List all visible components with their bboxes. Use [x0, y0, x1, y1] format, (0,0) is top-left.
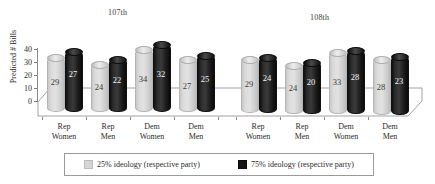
- category-label-line2: Women: [42, 132, 86, 142]
- bar-cap: [285, 62, 303, 70]
- category-label-line1: Rep: [86, 122, 130, 132]
- bar-value-107-rep-men-25: 24: [91, 83, 107, 92]
- category-label-3: Dem Men: [174, 122, 218, 142]
- category-label-7: Dem Men: [368, 122, 412, 142]
- bar-value-107-rep-men-75: 22: [109, 76, 125, 85]
- group-title-108th: 108th: [310, 13, 329, 22]
- legend-item-75: 75% ideology (respective party): [238, 160, 354, 169]
- category-label-line2: Men: [280, 132, 324, 142]
- legend-label-25: 25% ideology (respective party): [97, 160, 200, 169]
- bar-cap: [179, 56, 197, 64]
- bar-value-108-dem-men-25: 28: [373, 83, 389, 92]
- chart-container: 107th 108th Predicted # Bills 40 30 20 1…: [0, 0, 435, 184]
- bar-cap: [347, 47, 365, 55]
- bar-value-107-dem-women-25: 34: [135, 75, 151, 84]
- bar-cap: [303, 59, 321, 67]
- y-axis-label: Predicted # Bills: [9, 22, 18, 92]
- bar-107-rep-men-75: [109, 58, 127, 112]
- bar-107-rep-women-75: [65, 50, 83, 112]
- bar-108-rep-men-75: [303, 61, 321, 114]
- bar-value-107-dem-women-75: 32: [153, 70, 169, 79]
- category-label-line2: Women: [236, 132, 280, 142]
- y-axis-line: [37, 48, 38, 102]
- legend-label-75: 75% ideology (respective party): [251, 160, 354, 169]
- bar-cap: [47, 54, 65, 62]
- bar-cap: [373, 56, 391, 64]
- bar-value-107-dem-men-25: 27: [179, 82, 195, 91]
- bar-value-108-rep-women-75: 24: [259, 74, 275, 83]
- category-label-6: Dem Women: [324, 122, 368, 142]
- x-tickmark-7: [324, 117, 325, 120]
- bar-cap: [241, 56, 259, 64]
- bar-value-107-dem-men-75: 25: [197, 75, 213, 84]
- bar-cap: [65, 48, 83, 56]
- x-tickmark-2: [130, 117, 131, 120]
- category-label-line1: Rep: [236, 122, 280, 132]
- category-label-line2: Men: [86, 132, 130, 142]
- bar-value-108-rep-men-75: 20: [303, 78, 319, 87]
- bar-cap: [109, 56, 127, 64]
- x-tickmark-0: [42, 117, 43, 120]
- x-tickmark-8: [368, 117, 369, 120]
- category-label-line1: Rep: [42, 122, 86, 132]
- category-label-line2: Women: [324, 132, 368, 142]
- category-label-0: Rep Women: [42, 122, 86, 142]
- category-label-line1: Dem: [368, 122, 412, 132]
- y-tick-30: 30: [16, 58, 32, 67]
- y-tick-20: 20: [16, 71, 32, 80]
- x-tickmark-6: [280, 117, 281, 120]
- category-label-line1: Rep: [280, 122, 324, 132]
- category-label-4: Rep Women: [236, 122, 280, 142]
- category-label-line2: Men: [174, 132, 218, 142]
- legend-swatch-25-icon: [84, 160, 93, 169]
- category-label-line1: Dem: [324, 122, 368, 132]
- x-tickmark-5: [236, 117, 237, 120]
- bar-cap: [259, 54, 277, 62]
- bar-cap: [91, 61, 109, 69]
- y-tick-40: 40: [16, 45, 32, 54]
- bar-value-107-rep-women-25: 29: [47, 78, 63, 87]
- category-label-line2: Men: [368, 132, 412, 142]
- category-label-1: Rep Men: [86, 122, 130, 142]
- x-tickmark-3: [174, 117, 175, 120]
- bar-cap: [197, 52, 215, 60]
- bar-cap: [329, 49, 347, 57]
- bar-value-108-dem-women-75: 28: [347, 73, 363, 82]
- bar-cap: [153, 41, 171, 49]
- bar-108-rep-women-75: [259, 56, 277, 113]
- category-label-line1: Dem: [130, 122, 174, 132]
- x-tickmark-1: [86, 117, 87, 120]
- bar-value-108-dem-men-75: 23: [391, 77, 407, 86]
- category-label-line2: Women: [130, 132, 174, 142]
- category-label-line1: Dem: [174, 122, 218, 132]
- bar-cap: [135, 46, 153, 54]
- bar-value-108-rep-women-25: 29: [241, 80, 257, 89]
- bar-value-107-rep-women-75: 27: [65, 70, 81, 79]
- bar-value-108-dem-women-25: 33: [329, 78, 345, 87]
- legend-item-25: 25% ideology (respective party): [84, 160, 200, 169]
- legend-swatch-75-icon: [238, 160, 247, 169]
- y-tick-0: 0: [16, 97, 32, 106]
- category-label-2: Dem Women: [130, 122, 174, 142]
- bar-value-108-rep-men-25: 24: [285, 84, 301, 93]
- group-title-107th: 107th: [108, 8, 127, 17]
- y-tick-10: 10: [16, 84, 32, 93]
- category-label-5: Rep Men: [280, 122, 324, 142]
- x-tickmark-4: [218, 117, 219, 120]
- chart-legend: 25% ideology (respective party) 75% ideo…: [64, 153, 374, 176]
- bar-cap: [391, 53, 409, 61]
